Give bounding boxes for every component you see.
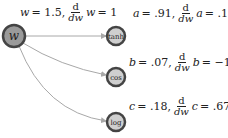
- derivative-fraction: ddw: [68, 2, 83, 23]
- var-value: = 1.5,: [31, 6, 65, 19]
- deriv-var: c: [192, 100, 198, 113]
- deriv-var: b: [193, 56, 200, 69]
- deriv-value: = .67: [200, 100, 228, 113]
- deriv-value: = 1: [98, 6, 118, 19]
- frac-den: dw: [178, 14, 193, 24]
- var-name: c: [129, 100, 135, 113]
- annotation-c: c = .18, ddw c = .67: [129, 96, 228, 117]
- deriv-var: a: [196, 7, 203, 20]
- frac-den: dw: [68, 13, 83, 23]
- annotation-a: a = .91, ddw a = .18: [133, 3, 228, 24]
- deriv-value: = −1.0: [202, 56, 228, 69]
- derivative-fraction: ddw: [174, 96, 189, 117]
- var-name: b: [129, 56, 136, 69]
- edge-w-log: [19, 46, 106, 121]
- annotation-b: b = .07, ddw b = −1.0: [129, 52, 228, 73]
- var-name: w: [20, 6, 29, 19]
- computation-graph: w tanh cos log w = 1.5, ddw w = 1 a = .9…: [0, 0, 228, 138]
- var-value: = .18,: [137, 100, 171, 113]
- edge-w-cos: [23, 43, 106, 75]
- var-value: = .07,: [138, 56, 172, 69]
- var-name: a: [133, 7, 140, 20]
- node-tanh: tanh: [107, 27, 125, 45]
- annotation-w: w = 1.5, ddw w = 1: [20, 2, 117, 23]
- node-w: w: [3, 25, 25, 47]
- frac-den: dw: [175, 63, 190, 73]
- node-log: log: [107, 113, 125, 131]
- derivative-fraction: ddw: [178, 3, 193, 24]
- svg-text:cos: cos: [110, 74, 122, 82]
- svg-text:tanh: tanh: [108, 33, 124, 41]
- var-value: = .91,: [142, 7, 176, 20]
- derivative-fraction: ddw: [175, 52, 190, 73]
- svg-text:log: log: [111, 119, 122, 127]
- deriv-value: = .18: [205, 7, 228, 20]
- svg-text:w: w: [9, 29, 20, 43]
- frac-den: dw: [174, 107, 189, 117]
- deriv-var: w: [86, 6, 95, 19]
- node-cos: cos: [107, 68, 125, 86]
